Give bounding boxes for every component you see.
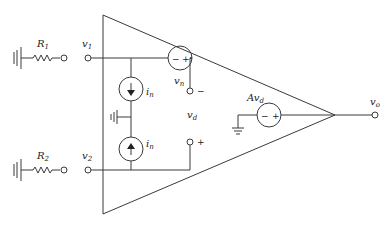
- resistor-r1: [33, 55, 60, 61]
- label-r1: R1: [36, 38, 49, 51]
- label-v2: v2: [82, 150, 93, 163]
- label-v1: v1: [82, 38, 92, 51]
- svg-text:−: −: [172, 54, 180, 64]
- svg-text:+: +: [272, 111, 280, 121]
- label-in-top: in: [146, 86, 154, 99]
- terminal-plus: [187, 139, 193, 145]
- label-vd: vd: [187, 109, 198, 122]
- label-vo: vo: [370, 96, 380, 109]
- label-vn: vn: [174, 75, 185, 88]
- node-v2: [85, 167, 91, 173]
- label-in-bottom: in: [146, 138, 154, 151]
- svg-text:+: +: [182, 54, 190, 64]
- svg-text:−: −: [261, 111, 269, 121]
- label-minus: −: [197, 86, 205, 96]
- label-avd: Avd: [246, 92, 264, 105]
- label-plus: +: [197, 137, 205, 147]
- circuit-diagram: R1 v1 R2 v2 − + vn − + in in vd: [0, 0, 391, 225]
- resistor-r2: [33, 167, 60, 173]
- node-vo: [372, 112, 378, 118]
- terminal-minus: [187, 88, 193, 94]
- label-r2: R2: [36, 150, 50, 163]
- node-v1: [85, 55, 91, 61]
